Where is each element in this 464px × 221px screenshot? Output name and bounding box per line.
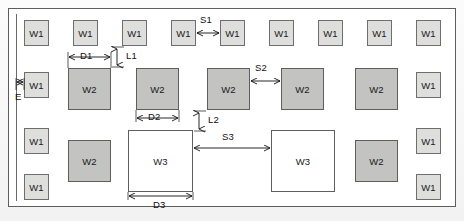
pad-label: W2 (295, 84, 310, 95)
pad-label: W2 (369, 84, 384, 95)
inner-left-rule (16, 14, 17, 201)
pad-label: W2 (221, 84, 236, 95)
pad-w2: W2 (68, 140, 111, 182)
pad-layout-figure: W1 W1 W1 W1 W1 W1 W1 W1 W1 W1 W1 W1 W1 W… (0, 0, 464, 221)
pad-label: W1 (29, 28, 44, 39)
pad-label: W1 (225, 28, 240, 39)
pad-w1: W1 (220, 20, 245, 46)
pad-w2: W2 (355, 140, 398, 182)
pad-w2: W2 (136, 68, 179, 110)
pad-w1: W1 (269, 20, 294, 46)
pad-label: W1 (29, 136, 44, 147)
pad-w1: W1 (416, 20, 441, 46)
pad-w2: W2 (281, 68, 324, 110)
pad-w2: W2 (207, 68, 250, 110)
pad-label: W1 (29, 182, 44, 193)
pad-label: W3 (296, 156, 311, 167)
pad-label: W1 (274, 28, 289, 39)
pad-label: W1 (176, 28, 191, 39)
pad-w1: W1 (24, 72, 49, 98)
pad-w1: W1 (416, 128, 441, 154)
pad-w1: W1 (367, 20, 392, 46)
pad-label: W2 (369, 156, 384, 167)
pad-w3: W3 (271, 130, 335, 192)
pad-w2: W2 (355, 68, 398, 110)
pad-label: W1 (421, 80, 436, 91)
pad-w1: W1 (73, 20, 98, 46)
pad-label: W1 (127, 28, 142, 39)
pad-label: W3 (153, 156, 168, 167)
pad-w1: W1 (171, 20, 196, 46)
pad-w1: W1 (416, 174, 441, 200)
pad-w1: W1 (122, 20, 147, 46)
pad-label: W1 (323, 28, 338, 39)
pad-label: W1 (29, 80, 44, 91)
pad-label: W1 (372, 28, 387, 39)
pad-w2: W2 (68, 68, 111, 110)
pad-label: W2 (150, 84, 165, 95)
pad-w1: W1 (318, 20, 343, 46)
pad-w1: W1 (24, 174, 49, 200)
pad-label: W2 (82, 84, 97, 95)
pad-label: W1 (421, 136, 436, 147)
pad-label: W1 (421, 182, 436, 193)
pad-w3: W3 (128, 130, 193, 192)
pad-w1: W1 (416, 72, 441, 98)
pad-w1: W1 (24, 128, 49, 154)
pad-label: W1 (78, 28, 93, 39)
pad-w1: W1 (24, 20, 49, 46)
pad-label: W2 (82, 156, 97, 167)
pad-label: W1 (421, 28, 436, 39)
